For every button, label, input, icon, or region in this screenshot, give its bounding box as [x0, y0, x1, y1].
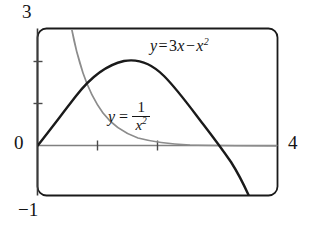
reciprocal-equation-label: y = 1 x2 — [108, 100, 150, 133]
parabola-equals: = — [158, 37, 169, 54]
graph-figure: 3 −1 0 4 y=3x−x2 y = 1 x2 — [0, 0, 312, 226]
fraction-denominator: x2 — [132, 117, 149, 133]
y-max-label: 3 — [22, 2, 32, 21]
origin-label: 0 — [14, 133, 24, 152]
parabola-term-exponent: 2 — [204, 36, 209, 47]
plot-area — [0, 0, 312, 226]
reciprocal-equals: = — [117, 109, 130, 125]
parabola-operator: − — [185, 37, 196, 54]
parabola-term-variable: x — [196, 37, 204, 54]
parabola-lhs: y — [150, 37, 158, 54]
parabola-equation-label: y=3x−x2 — [150, 38, 209, 54]
parabola-variable: x — [177, 37, 185, 54]
x-max-label: 4 — [288, 133, 298, 152]
y-min-label: −1 — [18, 200, 38, 219]
reciprocal-lhs: y — [108, 109, 115, 125]
reciprocal-fraction: 1 x2 — [132, 100, 150, 133]
denominator-exponent: 2 — [142, 116, 147, 126]
fraction-numerator: 1 — [134, 100, 148, 116]
